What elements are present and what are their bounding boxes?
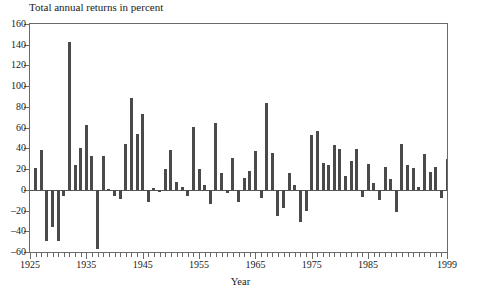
bar [355,149,358,190]
bar [293,185,296,190]
y-axis-tick-label: 120 [2,60,26,70]
bar [68,42,71,190]
x-axis-tick [419,253,420,257]
bar [107,189,110,190]
x-axis-tick [126,253,127,257]
x-axis-tick [115,253,116,257]
bar [175,182,178,190]
x-axis-tick-label: 1965 [235,259,275,270]
x-axis-tick [98,253,99,257]
x-axis-tick [289,253,290,257]
bar [406,165,409,189]
bar [322,163,325,189]
x-axis-tick [120,253,121,257]
y-axis-tick-label: –60 [2,247,26,257]
bar [344,176,347,190]
bar [51,190,54,227]
x-axis-tick [244,253,245,257]
bar [310,135,313,189]
x-axis-tick [92,253,93,257]
x-axis-tick [357,253,358,257]
bar [147,190,150,202]
x-axis-tick [239,253,240,257]
bar [248,171,251,190]
x-axis-tick [272,253,273,257]
x-axis-tick [284,253,285,257]
x-axis-tick [402,253,403,257]
x-axis-tick [131,253,132,257]
bar [85,125,88,190]
x-axis-tick-label: 1985 [348,259,388,270]
bar [124,144,127,190]
y-axis-tick-label: 140 [2,40,26,50]
bar [113,190,116,196]
x-axis-tick [216,253,217,257]
bar [333,145,336,190]
bar [214,123,217,190]
x-axis-tick [346,253,347,257]
x-axis-tick [188,253,189,257]
bar [96,190,99,249]
y-axis-tick-label: 160 [2,19,26,29]
x-axis-tick [58,253,59,257]
x-axis-tick [391,253,392,257]
x-axis-tick [75,253,76,257]
bar [158,190,161,192]
x-axis-tick [233,253,234,257]
x-axis-tick [267,253,268,257]
x-axis-tick [205,253,206,257]
bar [395,190,398,212]
bar [316,131,319,190]
bar [181,187,184,190]
x-axis-tick [109,253,110,257]
bar [276,190,279,216]
bar [192,127,195,190]
y-axis-tick-label: 40 [2,143,26,153]
bar [90,156,93,190]
x-axis-tick [137,253,138,257]
bar [203,185,206,190]
x-axis-tick [424,253,425,257]
bar [226,190,229,194]
bar [350,161,353,190]
bar [384,167,387,190]
x-axis-tick [160,253,161,257]
x-axis-tick-label: 1975 [292,259,332,270]
bar [237,190,240,202]
x-axis-tick [177,253,178,257]
bar [372,183,375,190]
x-axis-tick [227,253,228,257]
y-axis-tick-label: –40 [2,226,26,236]
x-axis-tick [408,253,409,257]
bar [198,169,201,190]
bar [299,190,302,222]
x-axis-tick [64,253,65,257]
x-axis-tick [47,253,48,257]
bar [119,190,122,199]
x-axis-tick [323,253,324,257]
bar [209,190,212,205]
bar [152,188,155,190]
bar [423,154,426,190]
bar [338,149,341,190]
x-axis-tick [441,253,442,257]
y-axis-tick-label: –20 [2,206,26,216]
bar [186,190,189,196]
y-axis-tick-label: 60 [2,123,26,133]
bar [327,165,330,189]
x-axis-tick [103,253,104,257]
bar [260,190,263,198]
x-axis-tick-label: 1935 [66,259,106,270]
x-axis-tick [41,253,42,257]
bar [130,98,133,190]
bars-container [30,24,447,252]
bar [271,153,274,190]
x-axis-tick [148,253,149,257]
x-axis-tick [261,253,262,257]
x-axis-tick [295,253,296,257]
x-axis-tick [306,253,307,257]
x-axis-tick [69,253,70,257]
x-axis-tick-label: 1955 [179,259,219,270]
x-axis-tick [193,253,194,257]
bar [389,179,392,189]
